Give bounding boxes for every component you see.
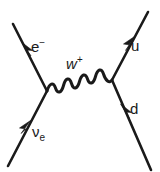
label-electron-charge: − — [39, 37, 45, 48]
label-neutrino-flavor: e — [40, 132, 46, 143]
label-w-boson: w+ — [66, 55, 83, 71]
w-boson-propagator-line — [47, 70, 112, 92]
label-down-quark-symbol: d — [130, 100, 138, 117]
label-electron: e− — [31, 38, 45, 54]
label-w-boson-symbol: w — [66, 55, 77, 72]
outgoing-up-quark-line — [112, 12, 148, 80]
label-down-quark: d — [130, 101, 138, 116]
feynman-diagram: e− νe w+ u d — [0, 0, 160, 172]
outgoing-electron-line — [13, 24, 47, 91]
incoming-down-quark-line — [112, 80, 151, 170]
label-neutrino-symbol: ν — [32, 123, 40, 140]
label-up-quark: u — [131, 38, 139, 53]
label-up-quark-symbol: u — [131, 37, 139, 54]
label-w-boson-charge: + — [77, 54, 83, 65]
feynman-diagram-canvas — [0, 0, 160, 172]
label-neutrino: νe — [32, 124, 45, 143]
